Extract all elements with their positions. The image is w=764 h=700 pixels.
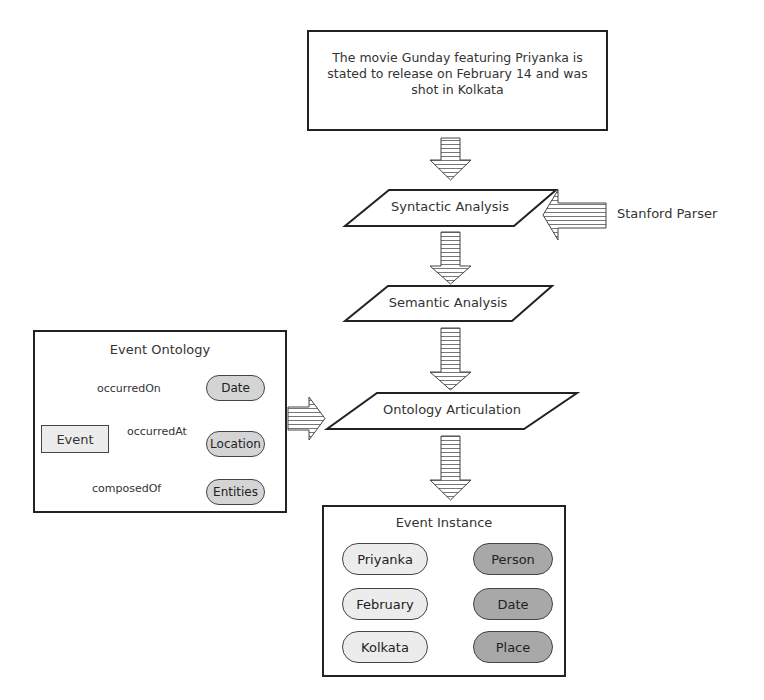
ontology-articulation-label: Ontology Articulation — [352, 402, 552, 417]
event-ontology-title: Event Ontology — [33, 342, 287, 357]
relation-label-composedof: composedOf — [92, 482, 161, 495]
relation-label-occurredon: occurredOn — [97, 382, 161, 395]
instance-type-place: Place — [473, 631, 553, 663]
instance-value-kolkata: Kolkata — [342, 631, 428, 663]
ontology-node-label: Entities — [213, 485, 258, 499]
stanford-parser-label: Stanford Parser — [617, 206, 717, 221]
ontology-node-entities: Entities — [206, 479, 265, 505]
down-arrow-icon — [430, 436, 471, 500]
input-sentence-line: stated to release on February 14 and was — [309, 66, 606, 82]
ontology-node-label: Location — [210, 437, 261, 451]
ontology-node-label: Date — [221, 381, 250, 395]
instance-value-label: Priyanka — [357, 552, 413, 567]
syntactic-analysis-label: Syntactic Analysis — [360, 199, 540, 214]
instance-type-label: Place — [496, 640, 531, 655]
instance-type-label: Person — [491, 552, 535, 567]
right-arrow-icon — [288, 397, 325, 440]
down-arrow-icon — [430, 138, 471, 180]
event-root-label: Event — [56, 432, 93, 447]
input-sentence-line: The movie Gunday featuring Priyanka is — [309, 50, 606, 66]
instance-type-person: Person — [473, 543, 553, 575]
relation-label-occurredat: occurredAt — [127, 425, 187, 438]
ontology-node-date: Date — [206, 375, 265, 401]
input-sentence-line: shot in Kolkata — [309, 82, 606, 98]
input-sentence-text: The movie Gunday featuring Priyanka is s… — [309, 50, 606, 98]
instance-type-label: Date — [497, 597, 528, 612]
instance-value-february: February — [342, 588, 428, 620]
event-root-node: Event — [41, 425, 109, 453]
instance-type-date: Date — [473, 588, 553, 620]
instance-value-priyanka: Priyanka — [342, 543, 428, 575]
down-arrow-icon — [430, 328, 471, 390]
down-arrow-icon — [430, 232, 471, 284]
event-instance-title: Event Instance — [322, 515, 566, 530]
left-arrow-icon — [543, 190, 606, 240]
semantic-analysis-label: Semantic Analysis — [358, 295, 538, 310]
instance-value-label: February — [356, 597, 414, 612]
ontology-node-location: Location — [206, 431, 265, 457]
instance-value-label: Kolkata — [361, 640, 409, 655]
